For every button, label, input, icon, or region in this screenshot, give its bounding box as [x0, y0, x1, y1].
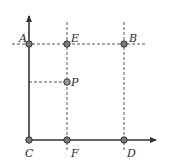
label-b: B	[128, 32, 137, 45]
label-d: D	[126, 147, 136, 160]
point-c	[26, 137, 32, 143]
geometry-diagram: A E B P C F D	[0, 0, 174, 167]
label-p: P	[70, 76, 79, 89]
label-f: F	[70, 147, 79, 160]
point-b	[121, 41, 127, 47]
point-f	[64, 137, 70, 143]
label-a: A	[18, 32, 27, 45]
point-p	[64, 79, 70, 85]
label-e: E	[70, 32, 79, 45]
label-c: C	[25, 147, 34, 160]
point-e	[64, 41, 70, 47]
point-d	[121, 137, 127, 143]
